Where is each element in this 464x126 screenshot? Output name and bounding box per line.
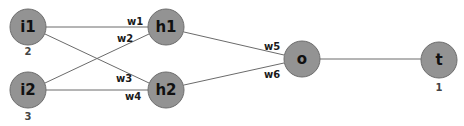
node-i1: i1: [10, 9, 46, 45]
node-value-i1: 2: [25, 46, 32, 57]
node-h1: h1: [148, 9, 184, 45]
node-label-i1: i1: [20, 18, 36, 36]
weight-label-w6: w6: [264, 69, 280, 80]
node-label-h1: h1: [155, 18, 176, 36]
node-t: t: [421, 42, 457, 78]
edges: [45, 27, 421, 90]
node-i2: i2: [10, 72, 46, 108]
weight-label-w1: w1: [127, 16, 143, 27]
node-label-i2: i2: [20, 81, 36, 99]
node-o: o: [284, 41, 320, 77]
node-label-h2: h2: [155, 81, 176, 99]
weight-labels: w1 w2 w3 w4 w5 w6: [116, 16, 280, 102]
weight-label-w4: w4: [125, 91, 141, 102]
node-value-i2: 3: [25, 111, 32, 122]
node-label-t: t: [435, 51, 442, 69]
weight-label-w5: w5: [264, 41, 280, 52]
node-value-t: 1: [436, 82, 443, 93]
node-h2: h2: [148, 72, 184, 108]
weight-label-w3: w3: [116, 73, 132, 84]
node-label-o: o: [297, 50, 307, 68]
weight-label-w2: w2: [117, 33, 133, 44]
neural-network-diagram: w1 w2 w3 w4 w5 w6 i1 2 i2 3 h1 h2 o t 1: [0, 0, 464, 126]
